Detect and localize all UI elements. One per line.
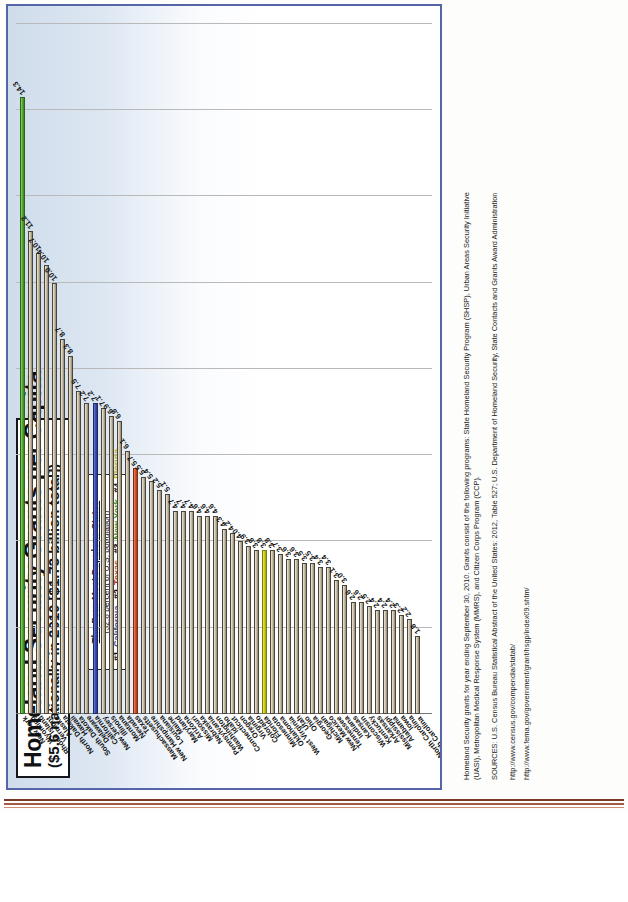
x-axis-tick: 14 bbox=[439, 103, 442, 117]
bar-row: 10.0Alaska bbox=[52, 24, 57, 714]
source-note-line5: http://www.fema.gov/government/grant/hsg… bbox=[522, 587, 533, 780]
bar-row: 2.6Kansas bbox=[351, 24, 356, 714]
bar-row: 3.8Florida bbox=[262, 24, 267, 714]
bar-row: 2.4Mississippi bbox=[383, 24, 388, 714]
bar-row: 3.6Utah bbox=[294, 24, 299, 714]
bar bbox=[28, 231, 33, 714]
bar-row: 3.5Georgia bbox=[310, 24, 315, 714]
bar bbox=[76, 391, 81, 714]
bar-row: 3.0Indiana bbox=[342, 24, 347, 714]
bar bbox=[262, 550, 267, 714]
bar bbox=[213, 516, 218, 714]
bar-row: 6.8Montana bbox=[117, 24, 122, 714]
bar bbox=[278, 554, 283, 714]
bar-row: 4.6Washington bbox=[213, 24, 218, 714]
bar-row: 5.1Maine bbox=[165, 24, 170, 714]
bar bbox=[391, 611, 396, 715]
bar-row: 4.3Idaho bbox=[222, 24, 227, 714]
bar-row: 5.7Texas bbox=[133, 24, 138, 714]
bar-row: 5.2Louisiana bbox=[157, 24, 162, 714]
bar bbox=[342, 585, 347, 714]
page-rule-2 bbox=[4, 803, 624, 805]
source-note-line3: SOURCES: U.S. Census Bureau Statistical … bbox=[490, 193, 501, 780]
bar bbox=[141, 477, 146, 714]
bar bbox=[302, 563, 307, 714]
scanned-page: Homeland Security Grants per Capita ($5.… bbox=[0, 0, 628, 902]
bar bbox=[415, 636, 420, 714]
bar-row: 6.9Illinois bbox=[109, 24, 114, 714]
bar bbox=[286, 559, 291, 714]
bar bbox=[383, 611, 388, 715]
bar bbox=[60, 339, 65, 714]
bar-value-label: 14.3 bbox=[10, 80, 26, 97]
bar bbox=[270, 550, 275, 714]
bar bbox=[52, 283, 57, 714]
x-axis-tick: 12 bbox=[439, 189, 442, 203]
bar bbox=[318, 567, 323, 714]
bar bbox=[133, 468, 138, 714]
bar bbox=[230, 533, 235, 714]
bar-row: 4.6Pennsylvania bbox=[205, 24, 210, 714]
plot-area: 0246810121416 14.3New York11.2Wyoming10.… bbox=[16, 24, 432, 714]
x-axis-tick: 8 bbox=[439, 365, 442, 372]
bar bbox=[173, 511, 178, 714]
bar bbox=[294, 559, 299, 714]
bar-row: 3.4Michigan bbox=[318, 24, 323, 714]
bar-row: 5.5Massachusetts bbox=[141, 24, 146, 714]
bar-row: 4.6Nebraska bbox=[197, 24, 202, 714]
bar bbox=[254, 550, 259, 714]
source-note-line4: http://www.census.gov/compendia/statab/ bbox=[508, 644, 519, 780]
bar-row: 3.6West Virginia bbox=[286, 24, 291, 714]
bar-row: 3.8Colorado bbox=[254, 24, 259, 714]
chart-frame: Homeland Security Grants per Capita ($5.… bbox=[6, 4, 442, 790]
bar bbox=[310, 563, 315, 714]
bar bbox=[246, 546, 251, 714]
bar-row: 14.3New York bbox=[20, 24, 25, 714]
x-axis-tick: 2 bbox=[439, 624, 442, 631]
x-axis-tick: 16 bbox=[439, 17, 442, 31]
bar bbox=[109, 416, 114, 714]
bar bbox=[20, 97, 25, 714]
x-axis-tick: 0 bbox=[439, 710, 442, 717]
bar bbox=[359, 602, 364, 714]
bar bbox=[149, 481, 154, 714]
x-axis-tick: 10 bbox=[439, 276, 442, 290]
bar bbox=[84, 404, 89, 715]
bar bbox=[44, 266, 49, 715]
bar bbox=[367, 606, 372, 714]
bar bbox=[197, 516, 202, 714]
x-axis-tick: 4 bbox=[439, 538, 442, 545]
bar-row: 7.2California bbox=[93, 24, 98, 714]
bar bbox=[205, 516, 210, 714]
source-notes: Homeland Security grants for year ending… bbox=[452, 0, 620, 786]
page-bottom-margin bbox=[0, 812, 628, 902]
bar bbox=[238, 542, 243, 715]
bar-row: 2.2North Carolina bbox=[407, 24, 412, 714]
bar-row: 11.2Wyoming bbox=[28, 24, 33, 714]
bar-row: 10.4Vermont bbox=[44, 24, 49, 714]
bar bbox=[36, 253, 41, 714]
bar bbox=[375, 611, 380, 715]
bar-row: 2.6Wisconsin bbox=[359, 24, 364, 714]
bar-row: 7.5South Dakota bbox=[76, 24, 81, 714]
bar bbox=[326, 567, 331, 714]
bar bbox=[125, 451, 130, 714]
bar bbox=[351, 602, 356, 714]
x-axis-tick: 6 bbox=[439, 452, 442, 459]
bar bbox=[68, 356, 73, 714]
bar bbox=[334, 580, 339, 714]
bar bbox=[189, 511, 194, 714]
bar-row: 8.3Hawaii bbox=[68, 24, 73, 714]
bar-row: 10.7Rhode Island bbox=[36, 24, 41, 714]
bar bbox=[93, 404, 98, 715]
bar-row: 8.7North Dakota bbox=[60, 24, 65, 714]
bar-row: 2.5Kentucky bbox=[367, 24, 372, 714]
bar-row: 4.7Arizona bbox=[181, 24, 186, 714]
bar-row: 3.7Oklahoma bbox=[278, 24, 283, 714]
bar-row: 5.4New Hampshire bbox=[149, 24, 154, 714]
bar bbox=[399, 615, 404, 714]
bar-row: 3.1Tennessee bbox=[334, 24, 339, 714]
rotated-chart-canvas: Homeland Security Grants per Capita ($5.… bbox=[8, 6, 440, 788]
bar-row: 3.8Minnesota bbox=[270, 24, 275, 714]
bar-row: 3.4New Mexico bbox=[326, 24, 331, 714]
